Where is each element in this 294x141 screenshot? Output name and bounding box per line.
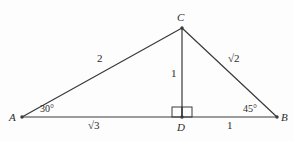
side-label-CD: 1 [171, 68, 177, 79]
angle-label-A: 30° [40, 104, 54, 114]
vertex-dot-D [180, 115, 183, 118]
geometry-figure: A B C D 2 √2 1 √3 1 30° 45° [0, 0, 294, 141]
right-angle-mark-left [172, 107, 182, 117]
right-angle-mark-right [182, 107, 192, 117]
vertex-dot-C [180, 26, 183, 29]
side-label-DB: 1 [227, 120, 233, 131]
vertex-dot-B [275, 115, 278, 118]
side-label-AD: √3 [88, 120, 100, 131]
vertex-label-B: B [281, 112, 288, 123]
vertex-dot-A [20, 115, 23, 118]
vertex-label-D: D [177, 122, 185, 133]
vertex-label-C: C [177, 12, 184, 23]
segment-CB [182, 28, 277, 117]
side-label-CB: √2 [228, 53, 240, 64]
triangle-diagram-canvas [0, 0, 294, 141]
side-label-AC: 2 [97, 53, 103, 64]
angle-label-B: 45° [243, 104, 257, 114]
vertex-label-A: A [9, 112, 16, 123]
